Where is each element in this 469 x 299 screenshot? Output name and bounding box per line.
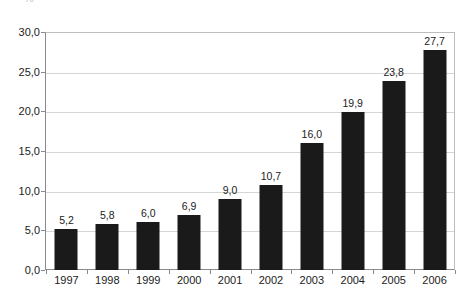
- clipped-header-glyph: %: [24, 0, 34, 3]
- bar-slot: 6,9: [169, 32, 210, 270]
- y-axis-tick-label: 30,0: [0, 26, 40, 38]
- bar-value-label: 23,8: [383, 66, 403, 78]
- x-axis-tick-label: 2001: [218, 274, 242, 286]
- x-axis-tick-label: 2005: [381, 274, 405, 286]
- y-axis: 0,05,010,015,020,025,030,0: [0, 32, 40, 270]
- bar-value-label: 10,7: [261, 170, 281, 182]
- y-axis-tick-mark: [41, 230, 45, 231]
- y-axis-tick-label: 25,0: [0, 66, 40, 78]
- x-axis-tick-mark: [251, 270, 252, 274]
- y-axis-tick-label: 0,0: [0, 264, 40, 276]
- bar-slot: 10,7: [251, 32, 292, 270]
- y-axis-tick-mark: [41, 270, 45, 271]
- x-axis-tick-mark: [414, 270, 415, 274]
- bar-slot: 6,0: [128, 32, 169, 270]
- bar-slot: 27,7: [414, 32, 455, 270]
- x-axis: 1997199819992000200120022003200420052006: [46, 274, 455, 296]
- y-axis-tick-mark: [41, 111, 45, 112]
- bar-value-label: 6,0: [141, 207, 156, 219]
- bar-slot: 16,0: [291, 32, 332, 270]
- x-axis-tick-mark: [87, 270, 88, 274]
- x-axis-tick-mark: [373, 270, 374, 274]
- bar: [300, 143, 323, 270]
- x-axis-tick-label: 1999: [136, 274, 160, 286]
- bar: [423, 50, 446, 270]
- bar-value-label: 6,9: [182, 200, 197, 212]
- x-axis-tick-label: 2004: [341, 274, 365, 286]
- x-axis-tick-mark: [332, 270, 333, 274]
- bar: [96, 224, 119, 270]
- y-axis-tick-mark: [41, 72, 45, 73]
- bars-group: 5,25,86,06,99,010,716,019,923,827,7: [46, 32, 455, 270]
- y-axis-tick-label: 20,0: [0, 105, 40, 117]
- x-axis-tick-mark: [455, 270, 456, 274]
- x-axis-tick-label: 2006: [422, 274, 446, 286]
- bar-value-label: 5,8: [100, 209, 115, 221]
- bar-value-label: 27,7: [424, 35, 444, 47]
- bar: [137, 222, 160, 270]
- bar-value-label: 5,2: [59, 214, 74, 226]
- bar: [219, 199, 242, 270]
- x-axis-tick-label: 2002: [259, 274, 283, 286]
- bar-slot: 9,0: [210, 32, 251, 270]
- y-axis-tick-label: 5,0: [0, 224, 40, 236]
- y-axis-tick-label: 15,0: [0, 145, 40, 157]
- bar-chart: % 0,05,010,015,020,025,030,0 5,25,86,06,…: [0, 0, 469, 299]
- bar: [178, 215, 201, 270]
- bar: [55, 229, 78, 270]
- x-axis-tick-label: 1998: [95, 274, 119, 286]
- x-axis-tick-mark: [210, 270, 211, 274]
- y-axis-tick-mark: [41, 32, 45, 33]
- bar-slot: 5,2: [46, 32, 87, 270]
- y-axis-tick-mark: [41, 151, 45, 152]
- bar-value-label: 16,0: [302, 128, 322, 140]
- bar: [341, 112, 364, 270]
- bar: [259, 185, 282, 270]
- x-axis-tick-label: 2003: [300, 274, 324, 286]
- bar-slot: 19,9: [332, 32, 373, 270]
- x-axis-tick-mark: [46, 270, 47, 274]
- x-axis-tick-mark: [128, 270, 129, 274]
- x-axis-tick-mark: [291, 270, 292, 274]
- y-axis-tick-label: 10,0: [0, 185, 40, 197]
- x-axis-tick-mark: [169, 270, 170, 274]
- bar: [382, 81, 405, 270]
- x-axis-tick-label: 2000: [177, 274, 201, 286]
- bar-value-label: 19,9: [343, 97, 363, 109]
- bar-slot: 5,8: [87, 32, 128, 270]
- bar-slot: 23,8: [373, 32, 414, 270]
- x-axis-tick-label: 1997: [54, 274, 78, 286]
- bar-value-label: 9,0: [223, 184, 238, 196]
- y-axis-tick-mark: [41, 191, 45, 192]
